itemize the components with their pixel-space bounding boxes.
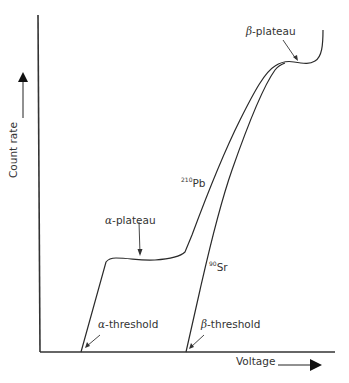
- beta-threshold-arrowhead-icon: [189, 343, 194, 349]
- alpha-plateau-arrowhead-icon: [138, 249, 143, 256]
- y-axis-arrow-icon: [18, 72, 28, 82]
- alpha-threshold-arrowhead-icon: [85, 342, 90, 348]
- pb210-curve: [81, 30, 323, 352]
- alpha-threshold-label: α-threshold: [98, 318, 158, 330]
- chart-canvas: [0, 0, 349, 383]
- beta-plateau-label: β-plateau: [246, 25, 296, 37]
- sr90-curve: [186, 63, 285, 352]
- y-axis: [38, 15, 40, 352]
- beta-threshold-pointer: [191, 335, 204, 347]
- x-axis-arrow-icon: [310, 359, 322, 371]
- x-axis-label: Voltage: [236, 355, 275, 367]
- pb210-label: 210Pb: [181, 176, 205, 189]
- y-axis-label: Count rate: [7, 122, 19, 178]
- alpha-plateau-label: α-plateau: [105, 214, 156, 226]
- beta-plateau-pointer: [283, 40, 296, 59]
- alpha-threshold-pointer: [87, 335, 100, 346]
- beta-threshold-label: β-threshold: [201, 318, 260, 330]
- sr90-label: 90Sr: [209, 260, 228, 273]
